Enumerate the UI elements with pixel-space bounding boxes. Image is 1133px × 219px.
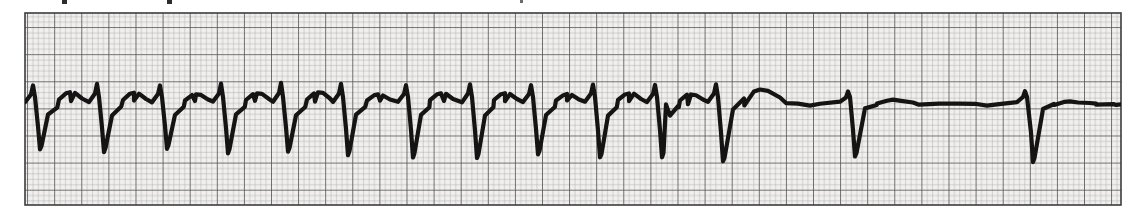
ecg-paper [25, 13, 1121, 205]
cut-text-remnant-mid [167, 0, 172, 4]
ecg-figure [0, 0, 1133, 219]
paper-texture [25, 13, 1121, 205]
cut-text-remnant-right [520, 0, 523, 3]
ecg-chart [0, 0, 1133, 219]
cut-text-remnant-left [62, 0, 67, 4]
